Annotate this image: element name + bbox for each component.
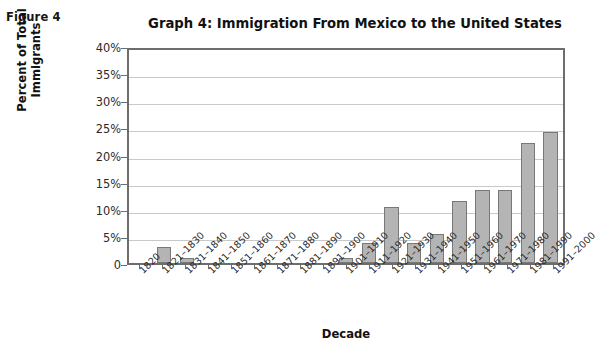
y-axis-tick-mark — [121, 265, 127, 266]
bar-slot — [175, 50, 198, 263]
x-axis-tick-mark — [461, 265, 462, 269]
bar-slot — [198, 50, 221, 263]
chart-title: Graph 4: Immigration From Mexico to the … — [130, 16, 580, 31]
y-axis-tick-mark — [121, 184, 127, 185]
x-axis-tick-mark — [162, 265, 163, 269]
x-axis-tick-mark — [300, 265, 301, 269]
y-axis-tick-label: 35% — [96, 68, 121, 82]
bar-slot — [221, 50, 244, 263]
x-axis-tick-mark — [507, 265, 508, 269]
y-axis-tick-label: 30% — [96, 95, 121, 109]
y-axis-tick-mark — [121, 211, 127, 212]
x-axis-tick-mark — [277, 265, 278, 269]
y-axis-tick-mark — [121, 102, 127, 103]
x-axis-title: Decade — [127, 327, 565, 341]
y-axis-tick-labels: 05%10%15%20%25%30%35%40% — [76, 0, 121, 346]
y-axis-tick-mark — [121, 157, 127, 158]
y-axis-tick-label: 15% — [96, 177, 121, 191]
x-axis-tick-mark — [553, 265, 554, 269]
y-axis-tick-label: 40% — [96, 41, 121, 55]
x-axis-tick-mark — [369, 265, 370, 269]
y-axis-tick-mark — [121, 48, 127, 49]
x-axis-tick-mark — [254, 265, 255, 269]
y-axis-tick-label: 20% — [96, 150, 121, 164]
bar-slot — [130, 50, 153, 263]
x-axis-tick-mark — [415, 265, 416, 269]
x-axis-tick-mark — [231, 265, 232, 269]
x-axis-tick-mark — [438, 265, 439, 269]
x-axis-tick-mark — [139, 265, 140, 269]
y-axis-tick-label: 10% — [96, 204, 121, 218]
x-axis-tick-mark — [484, 265, 485, 269]
bar-slot — [153, 50, 176, 263]
y-axis-title: Percent of Total Immigrants — [15, 0, 43, 145]
x-axis-tick-mark — [346, 265, 347, 269]
y-axis-tick-mark — [121, 129, 127, 130]
x-axis-tick-mark — [185, 265, 186, 269]
x-axis-tick-mark — [323, 265, 324, 269]
y-axis-tick-label: 0 — [114, 258, 121, 272]
y-axis-tick-mark — [121, 238, 127, 239]
y-axis-tick-label: 5% — [103, 231, 121, 245]
y-axis-tick-label: 25% — [96, 122, 121, 136]
x-axis-tick-mark — [392, 265, 393, 269]
x-axis-tick-mark — [530, 265, 531, 269]
x-axis-tick-mark — [208, 265, 209, 269]
y-axis-tick-mark — [121, 75, 127, 76]
